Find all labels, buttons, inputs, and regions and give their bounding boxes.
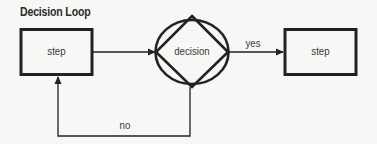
decision-label: decision [160, 45, 223, 57]
edge-label-no: no [112, 119, 138, 131]
edge-label-yes: yes [238, 37, 268, 49]
flowchart-canvas [0, 0, 377, 144]
step-right-label: step [289, 45, 351, 57]
step-left-label: step [25, 45, 87, 57]
